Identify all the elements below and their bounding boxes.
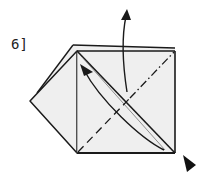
push-arrow-icon — [183, 155, 196, 172]
left-flap — [30, 51, 77, 153]
origami-diagram — [0, 0, 199, 182]
